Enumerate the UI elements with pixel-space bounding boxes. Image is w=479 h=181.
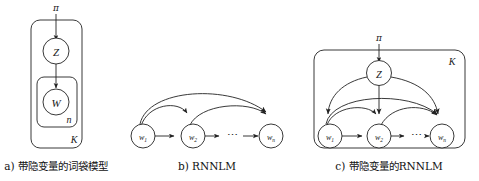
plate-outer-label: K [448, 56, 457, 67]
edge-w1-to-w2-curved [327, 108, 376, 125]
latent-variable-node-z-label: Z [376, 69, 382, 80]
panel-a: π K n Z W a) 带隐变量的词袋模型 [4, 3, 108, 172]
panel-a-caption: a) 带隐变量的词袋模型 [4, 160, 108, 172]
prior-label-pi: π [52, 3, 60, 13]
prior-label-pi: π [375, 33, 383, 43]
ellipsis-c: ⋯ [411, 129, 423, 141]
panel-c: π K Z w1 w2 ⋯ wn c) 带隐 [314, 33, 465, 172]
edge-z-to-wn [391, 77, 438, 114]
edge-w1-to-wn [326, 98, 437, 124]
figure-graphical-models: π K n Z W a) 带隐变量的词袋模型 w1 w2 [0, 0, 479, 181]
ellipsis-b: ⋯ [227, 129, 239, 141]
edge-w2-to-wn [381, 108, 437, 125]
edge-w1-to-w2-curved [141, 106, 187, 126]
plate-outer-label: K [70, 134, 79, 145]
edge-w1-to-wn [140, 94, 266, 124]
plate-inner-label: n [67, 114, 72, 125]
panel-b: w1 w2 ⋯ wn b) RNNLM [131, 94, 283, 172]
panel-c-caption: c) 带隐变量的RNNLM [335, 160, 443, 172]
word-node-w-label: W [51, 97, 61, 109]
panel-b-caption: b) RNNLM [178, 160, 236, 172]
figure-canvas: π K n Z W a) 带隐变量的词袋模型 w1 w2 [0, 0, 479, 181]
latent-variable-node-z-label: Z [53, 46, 60, 58]
edge-w2-to-wn [190, 106, 266, 125]
